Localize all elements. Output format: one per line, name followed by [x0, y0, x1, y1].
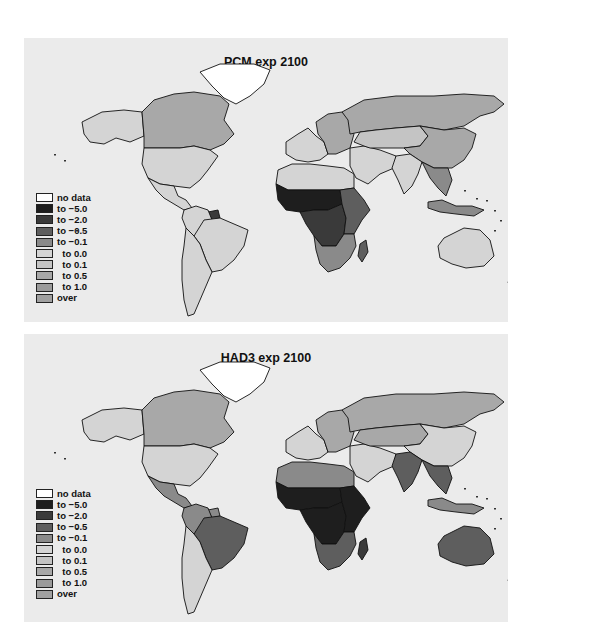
legend-item: to 0.0 [36, 248, 91, 259]
island-marker [494, 528, 496, 530]
legend-swatch [36, 294, 53, 303]
legend: no datato −5.0to −2.0to −0.5to −0.1 to 0… [36, 488, 91, 600]
legend-item: to 0.5 [36, 270, 91, 281]
legend-swatch [36, 489, 53, 498]
world-map [24, 334, 508, 622]
legend-swatch [36, 534, 53, 543]
island-marker [500, 518, 502, 520]
legend-swatch [36, 204, 53, 213]
legend-label: to 1.0 [57, 578, 87, 588]
legend-item: to 0.5 [36, 566, 91, 577]
region-canada [142, 390, 234, 448]
legend-label: no data [57, 193, 91, 203]
island-marker [494, 508, 496, 510]
legend-swatch [36, 511, 53, 520]
island-marker [464, 488, 466, 490]
legend-label: to −0.5 [57, 226, 87, 236]
legend-swatch [36, 227, 53, 236]
legend: no datato −5.0to −2.0to −0.5to −0.1 to 0… [36, 192, 91, 304]
legend-label: to 0.0 [57, 545, 87, 555]
legend-label: to 0.1 [57, 260, 87, 270]
region-middle-east [350, 444, 396, 482]
legend-item: no data [36, 192, 91, 203]
island-marker [476, 198, 478, 200]
region-india [392, 452, 422, 492]
legend-swatch [36, 271, 53, 280]
legend-swatch [36, 238, 53, 247]
world-map [24, 38, 508, 322]
legend-label: to −0.1 [57, 237, 87, 247]
region-madagascar [358, 240, 368, 262]
legend-label: over [57, 589, 77, 599]
legend-item: to −0.1 [36, 237, 91, 248]
legend-item: to −5.0 [36, 499, 91, 510]
legend-swatch [36, 590, 53, 599]
map-panel-had3: HAD3 exp 2100 no datato −5.0to −2.0to −0… [24, 334, 508, 622]
legend-swatch [36, 260, 53, 269]
legend-item: to 1.0 [36, 282, 91, 293]
legend-swatch [36, 500, 53, 509]
island-marker [64, 160, 66, 162]
region-middle-east [350, 146, 396, 184]
legend-item: over [36, 589, 91, 600]
region-alaska [82, 408, 144, 442]
legend-label: to 0.5 [57, 271, 87, 281]
legend-label: to −2.0 [57, 511, 87, 521]
island-marker [64, 458, 66, 460]
island-marker [54, 452, 56, 454]
island-marker [476, 496, 478, 498]
island-marker [486, 498, 488, 500]
legend-label: to 0.1 [57, 556, 87, 566]
legend-label: to −0.5 [57, 522, 87, 532]
region-east-africa [340, 188, 370, 234]
legend-swatch [36, 283, 53, 292]
island-marker [494, 230, 496, 232]
island-marker [500, 220, 502, 222]
legend-swatch [36, 567, 53, 576]
legend-swatch [36, 215, 53, 224]
legend-label: to −5.0 [57, 500, 87, 510]
legend-item: to 0.1 [36, 259, 91, 270]
island-marker [54, 154, 56, 156]
legend-label: no data [57, 489, 91, 499]
legend-label: over [57, 293, 77, 303]
legend-swatch [36, 523, 53, 532]
legend-label: to 0.5 [57, 567, 87, 577]
legend-item: to −2.0 [36, 214, 91, 225]
legend-label: to 1.0 [57, 282, 87, 292]
legend-item: over [36, 293, 91, 304]
legend-item: to 1.0 [36, 578, 91, 589]
island-marker [486, 200, 488, 202]
legend-swatch [36, 579, 53, 588]
island-marker [494, 210, 496, 212]
legend-item: no data [36, 488, 91, 499]
region-australia [438, 228, 494, 268]
legend-label: to −0.1 [57, 533, 87, 543]
legend-item: to −0.5 [36, 522, 91, 533]
map-panel-pcm: PCM exp 2100 no datato −5.0to −2.0to −0.… [24, 38, 508, 322]
region-india [392, 154, 422, 194]
legend-item: to −5.0 [36, 203, 91, 214]
legend-swatch [36, 556, 53, 565]
legend-item: to −0.1 [36, 533, 91, 544]
region-australia [438, 526, 494, 566]
region-alaska [82, 110, 144, 144]
legend-swatch [36, 193, 53, 202]
region-madagascar [358, 538, 368, 560]
legend-item: to 0.0 [36, 544, 91, 555]
legend-label: to −5.0 [57, 204, 87, 214]
legend-item: to −2.0 [36, 510, 91, 521]
region-north-africa [276, 462, 354, 488]
legend-label: to 0.0 [57, 249, 87, 259]
legend-swatch [36, 249, 53, 258]
island-marker [464, 190, 466, 192]
region-north-africa [276, 164, 354, 190]
region-indonesia [428, 498, 484, 514]
region-canada [142, 92, 234, 150]
region-east-africa [340, 486, 370, 532]
legend-swatch [36, 545, 53, 554]
region-indonesia [428, 200, 484, 216]
legend-item: to 0.1 [36, 555, 91, 566]
legend-item: to −0.5 [36, 226, 91, 237]
legend-label: to −2.0 [57, 215, 87, 225]
